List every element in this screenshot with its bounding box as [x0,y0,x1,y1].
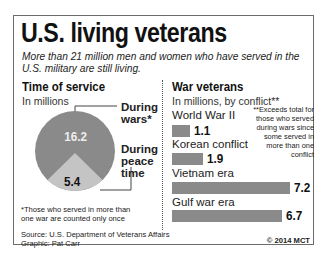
bar-vietnam [172,182,290,194]
pie-value-peace: 5.4 [64,174,80,189]
bar-label-korea: Korean conflict [172,138,248,151]
bar-korea [172,153,203,165]
pie-label-wars: During wars* [121,101,158,125]
bar-value-ww2: 1.1 [194,124,210,137]
source-credit: Source: U.S. Department of Veterans Affa… [21,231,169,248]
pie-label-peace: During peace time [121,143,158,179]
war-veterans-title: War veterans [172,79,243,94]
bar-value-korea: 1.9 [207,152,223,165]
bar-value-gulf: 6.7 [286,209,302,222]
bar-ww2 [172,125,190,137]
time-of-service-footnote: *Those who served in more than one war a… [21,205,130,223]
bar-label-vietnam: Vietnam era [172,167,234,180]
war-veterans-note: **Exceeds total for those who served dur… [240,105,314,159]
bar-value-vietnam: 7.2 [294,181,310,194]
callout-wars-line [75,106,117,111]
bar-label-gulf: Gulf war era [172,196,235,209]
section-divider [162,80,163,230]
pie-value-wars: 16.2 [64,129,87,144]
bar-label-ww2: World War II [172,109,235,122]
copyright: © 2014 MCT [267,236,310,245]
bar-gulf [172,210,282,222]
